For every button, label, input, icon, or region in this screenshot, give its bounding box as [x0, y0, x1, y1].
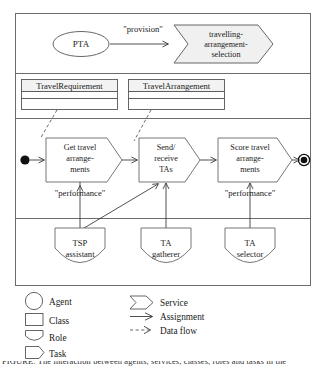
role-lane: TSP assistant TA gatherer TA selector [55, 228, 275, 263]
pentagon-icon [26, 347, 45, 359]
legend-agent-label: Agent [49, 297, 72, 307]
legend-assignment-label: Assignment [160, 312, 205, 322]
class-travelarrangement[interactable]: TravelArrangement [129, 80, 225, 110]
legend-role-label: Role [49, 333, 67, 343]
class-travelrequirement[interactable]: TravelRequirement [22, 80, 118, 110]
role1-label-line1: TSP [73, 238, 88, 248]
task3-label-line1: Score travel [230, 143, 270, 152]
task2-label-line3: TAs [159, 165, 172, 174]
legend-relations: Service Assignment Data flow [130, 296, 205, 336]
task1-to-task2-arrow [122, 157, 138, 163]
solid-arrow-icon [130, 313, 153, 320]
legend-item-assignment: Assignment [130, 312, 205, 322]
role-tsp-assistant[interactable]: TSP assistant [55, 228, 105, 263]
provision-edge-label: "provision" [123, 24, 162, 34]
service-label-line1: travelling- [209, 30, 243, 39]
shield-icon [26, 331, 44, 341]
figure-caption-text: FIGURE: The interaction between agents, … [0, 361, 325, 366]
service-travelling-arrangement-selection[interactable]: travelling- arrangement- selection [174, 25, 273, 63]
dataflow-travelarrangement-to-task2 [134, 110, 151, 141]
legend-item-role: Role [26, 331, 67, 344]
diagram-svg: PTA "provision" travelling- arrangement-… [0, 0, 325, 370]
legend-item-dataflow: Data flow [130, 326, 197, 336]
legend-shapes: Agent Class Role Task [25, 292, 72, 359]
class-travelarrangement-label: TravelArrangement [143, 81, 211, 91]
service-label-line3: selection [211, 50, 240, 59]
task3-label-line3: ments [240, 165, 260, 174]
task-score-travel-arrangements[interactable]: Score travel arrange- ments [218, 138, 292, 182]
role2-label-line1: TA [161, 238, 173, 248]
legend-service-label: Service [160, 298, 188, 308]
task1-label-line2: arrange- [66, 154, 94, 163]
legend-item-class: Class [26, 314, 70, 326]
role-ta-selector[interactable]: TA selector [225, 228, 275, 263]
task3-label-line2: arrange- [236, 154, 264, 163]
legend-task-label: Task [49, 349, 67, 359]
task1-label-line3: ments [70, 165, 90, 174]
legend-item-agent: Agent [25, 292, 72, 309]
task-get-travel-arrangements[interactable]: Get travel arrange- ments [46, 138, 122, 182]
task2-label-line2: receive [154, 154, 178, 163]
agent-pta-label: PTA [73, 39, 90, 49]
legend-item-service: Service [130, 296, 188, 309]
task-send-receive-tas[interactable]: Send/ receive TAs [139, 138, 200, 182]
task2-to-task3-arrow [200, 157, 217, 163]
role1-label-line2: assistant [65, 249, 95, 259]
dashed-arrow-icon [130, 326, 151, 333]
rectangle-icon [26, 314, 44, 326]
task2-label-line1: Send/ [157, 143, 176, 152]
agent-pta[interactable]: PTA [53, 32, 109, 57]
start-arrow [30, 157, 45, 163]
task1-label-line1: Get travel [64, 143, 97, 152]
data-flow-edges [40, 110, 151, 141]
role-ta-gatherer[interactable]: TA gatherer [141, 228, 191, 263]
chevron-icon [130, 296, 153, 309]
circle-icon [25, 292, 42, 309]
diagram-canvas: PTA "provision" travelling- arrangement-… [0, 0, 325, 370]
legend-dataflow-label: Data flow [160, 326, 197, 336]
class-lane: TravelRequirement TravelArrangement [22, 80, 225, 110]
service-label-line2: arrangement- [204, 40, 248, 49]
class-travelrequirement-label: TravelRequirement [36, 81, 103, 91]
dataflow-travelrequirement-to-task1 [40, 110, 57, 139]
legend-item-task: Task [26, 347, 67, 360]
service-lane: PTA "provision" travelling- arrangement-… [53, 24, 273, 63]
provision-edge: "provision" [110, 24, 169, 47]
role3-label-line1: TA [245, 238, 257, 248]
task-lane: Get travel arrange- ments Send/ receive … [20, 138, 309, 198]
legend-class-label: Class [49, 316, 70, 326]
start-node [20, 155, 29, 164]
role3-label-line2: selector [237, 249, 264, 259]
assignment-tsp-to-task1 [77, 182, 83, 228]
figure-caption-clipped: FIGURE: The interaction between agents, … [0, 361, 325, 370]
role2-label-line2: gatherer [152, 249, 180, 259]
assignment-tagatherer-to-task2 [163, 183, 169, 228]
